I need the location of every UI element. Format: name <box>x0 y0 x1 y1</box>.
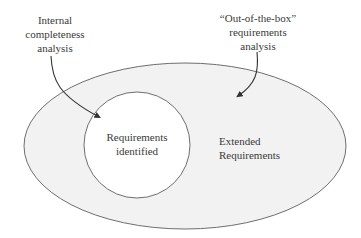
label-line: Internal <box>5 13 105 27</box>
label-line: analysis <box>5 41 105 55</box>
label-line: completeness <box>5 27 105 41</box>
internal-completeness-analysis-label: Internal completeness analysis <box>5 13 105 55</box>
requirements-identified-label: Requirements identified <box>87 130 187 158</box>
out-of-the-box-analysis-label: “Out-of-the-box” requirements analysis <box>203 11 313 53</box>
label-line: Requirements <box>87 130 187 144</box>
label-line: Requirements <box>219 148 319 162</box>
label-line: identified <box>87 144 187 158</box>
diagram-canvas: Internal completeness analysis “Out-of-t… <box>0 0 361 238</box>
extended-requirements-label: Extended Requirements <box>219 134 319 162</box>
label-line: Extended <box>219 134 319 148</box>
label-line: “Out-of-the-box” <box>203 11 313 25</box>
label-line: analysis <box>203 39 313 53</box>
label-line: requirements <box>203 25 313 39</box>
